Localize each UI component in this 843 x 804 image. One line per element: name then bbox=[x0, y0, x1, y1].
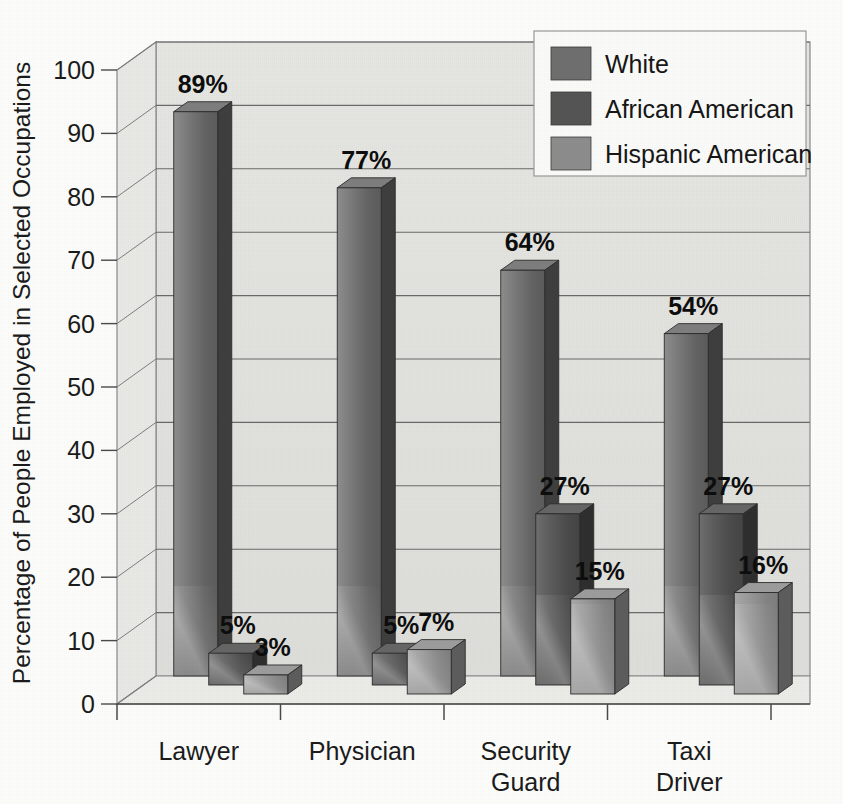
legend: WhiteAfrican AmericanHispanic American bbox=[534, 31, 812, 176]
legend-swatch bbox=[551, 92, 591, 125]
bar-value-label: 16% bbox=[738, 551, 788, 579]
bar-value-label: 5% bbox=[383, 611, 419, 639]
x-axis-ticks bbox=[117, 704, 771, 720]
bar-side-face bbox=[218, 102, 232, 676]
bar-value-label: 27% bbox=[703, 472, 753, 500]
bar bbox=[571, 589, 629, 694]
bar-value-label: 7% bbox=[418, 608, 454, 636]
bar-side-face bbox=[778, 583, 792, 694]
y-tick-label: 90 bbox=[67, 119, 95, 147]
bar-side-face bbox=[451, 640, 465, 694]
y-tick-label: 10 bbox=[67, 627, 95, 655]
bar-side-face bbox=[615, 589, 629, 694]
bar-highlight bbox=[408, 650, 451, 694]
y-tick-label: 40 bbox=[67, 436, 95, 464]
legend-swatch bbox=[551, 47, 591, 80]
bar-value-label: 15% bbox=[575, 557, 625, 585]
y-tick-label: 60 bbox=[67, 310, 95, 338]
x-axis-category-label: TaxiDriver bbox=[656, 737, 723, 796]
bar-value-label: 5% bbox=[220, 611, 256, 639]
bar-value-label: 77% bbox=[341, 146, 391, 174]
legend-item-label: White bbox=[605, 50, 669, 78]
bar-value-label: 64% bbox=[505, 228, 555, 256]
y-axis-title: Percentage of People Employed in Selecte… bbox=[8, 62, 35, 684]
y-tick-label: 70 bbox=[67, 246, 95, 274]
bar-highlight bbox=[571, 604, 614, 693]
y-tick-label: 0 bbox=[81, 690, 95, 718]
bar-side-face bbox=[381, 178, 395, 676]
bar-value-label: 3% bbox=[255, 633, 291, 661]
x-axis-category-label: SecurityGuard bbox=[481, 737, 572, 796]
bar-highlight bbox=[735, 604, 778, 693]
x-axis-category-label: Physician bbox=[309, 737, 416, 765]
bar-value-label: 89% bbox=[178, 70, 228, 98]
y-tick-label: 20 bbox=[67, 563, 95, 591]
y-tick-label: 30 bbox=[67, 500, 95, 528]
bar bbox=[244, 665, 302, 694]
x-axis-labels: LawyerPhysicianSecurityGuardTaxiDriver bbox=[158, 737, 722, 796]
bar-highlight bbox=[244, 675, 287, 693]
y-tick-label: 50 bbox=[67, 373, 95, 401]
bar-value-label: 54% bbox=[668, 292, 718, 320]
bar bbox=[174, 102, 232, 676]
bar-value-label: 27% bbox=[540, 472, 590, 500]
legend-item-label: African American bbox=[605, 95, 794, 123]
y-tick-label: 80 bbox=[67, 183, 95, 211]
legend-item-label: Hispanic American bbox=[605, 140, 812, 168]
y-tick-label: 100 bbox=[53, 56, 95, 84]
x-axis-category-label: Lawyer bbox=[158, 737, 239, 765]
chart-canvas: 0102030405060708090100 89%5%3%77%5%7%64%… bbox=[0, 0, 843, 804]
bar bbox=[734, 583, 792, 694]
bar-chart: 0102030405060708090100 89%5%3%77%5%7%64%… bbox=[0, 0, 843, 804]
legend-swatch bbox=[551, 137, 591, 170]
bar bbox=[337, 178, 395, 676]
bar bbox=[407, 640, 465, 694]
